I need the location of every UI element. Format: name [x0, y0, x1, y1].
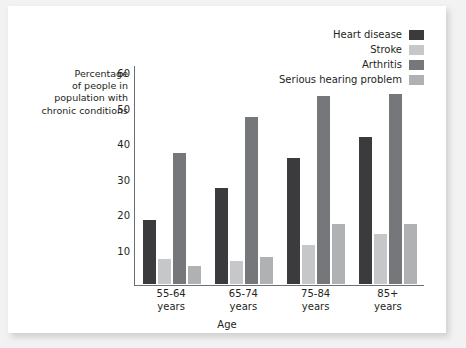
y-axis-title-line: Percentage [30, 68, 128, 80]
x-axis-title: Age [8, 319, 446, 330]
y-axis-tick-label: 10 [117, 245, 130, 256]
figure-root: Heart disease Stroke Arthritis Serious h… [0, 0, 466, 348]
chart-card: Heart disease Stroke Arthritis Serious h… [8, 6, 446, 333]
y-axis-title: Percentage of people in population with … [30, 68, 128, 117]
x-axis-category-label-line: years [138, 301, 204, 314]
plot-wrap: 605040302010 55-64years65-74years75-84ye… [134, 66, 424, 286]
x-axis-category-label: 65-74years [210, 288, 276, 313]
plot-area: 605040302010 [134, 66, 424, 286]
bar[interactable] [287, 158, 300, 284]
bar[interactable] [317, 96, 330, 284]
y-axis-title-line: of people in [30, 80, 128, 92]
x-axis-category-label-line: years [210, 301, 276, 314]
bar-group [287, 66, 345, 284]
legend-swatch-icon [409, 45, 424, 55]
x-axis-category-label: 75-84years [283, 288, 349, 313]
y-axis-tick-label: 50 [117, 103, 130, 114]
x-axis-category-label-line: 75-84 [283, 288, 349, 301]
bar[interactable] [215, 188, 228, 284]
bar[interactable] [173, 153, 186, 284]
legend-swatch-icon [409, 30, 424, 40]
y-axis-tick-label: 60 [117, 68, 130, 79]
legend-item-heart-disease: Heart disease [194, 28, 424, 41]
x-axis-category-label-line: 85+ [355, 288, 421, 301]
y-axis-tick-label: 20 [117, 210, 130, 221]
y-axis-title-line: chronic conditions [30, 105, 128, 117]
bar[interactable] [302, 245, 315, 284]
bar[interactable] [245, 117, 258, 284]
x-axis-category-label-line: years [283, 301, 349, 314]
bar[interactable] [230, 261, 243, 284]
bar[interactable] [389, 94, 402, 284]
bar[interactable] [158, 259, 171, 284]
legend-item-stroke: Stroke [194, 43, 424, 56]
x-axis-category-label: 85+years [355, 288, 421, 313]
bar-group [143, 66, 201, 284]
x-axis-category-label-line: years [355, 301, 421, 314]
bar[interactable] [374, 234, 387, 284]
bar[interactable] [332, 224, 345, 284]
bar[interactable] [359, 137, 372, 284]
x-axis-category-label: 55-64years [138, 288, 204, 313]
x-axis-category-label-line: 65-74 [210, 288, 276, 301]
bar-group [215, 66, 273, 284]
x-axis-labels: 55-64years65-74years75-84years85+years [135, 288, 424, 313]
x-axis-category-label-line: 55-64 [138, 288, 204, 301]
legend-label: Heart disease [333, 28, 402, 41]
bar-group [359, 66, 417, 284]
bar[interactable] [404, 224, 417, 284]
bar[interactable] [188, 266, 201, 284]
bar[interactable] [143, 220, 156, 284]
y-axis-title-line: population with [30, 92, 128, 104]
y-axis-tick-label: 30 [117, 174, 130, 185]
legend-label: Stroke [370, 43, 402, 56]
bar-groups [136, 66, 424, 284]
y-axis-tick-label: 40 [117, 139, 130, 150]
bar[interactable] [260, 257, 273, 284]
